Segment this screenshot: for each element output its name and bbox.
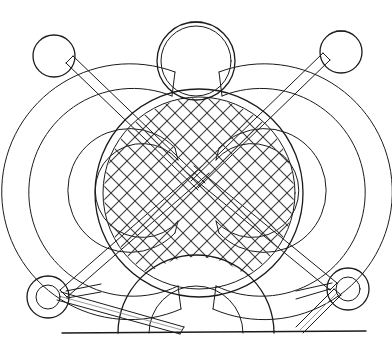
top-ring [157, 22, 235, 100]
drawing-canvas: Hand drawn symmetric mechanical linkage … [0, 0, 392, 352]
ground-line [62, 331, 366, 333]
central-disc [95, 65, 335, 305]
line-drawing-figure [0, 0, 392, 352]
bottom-arch [118, 255, 274, 333]
rod-upper-right [191, 53, 330, 188]
top-right-hub [320, 31, 362, 73]
tie-rod-right [296, 289, 341, 333]
disc-hatching [95, 65, 335, 305]
left-arc-band [2, 64, 181, 320]
left-hub-spokes [66, 284, 101, 298]
top-left-hub [33, 35, 75, 77]
